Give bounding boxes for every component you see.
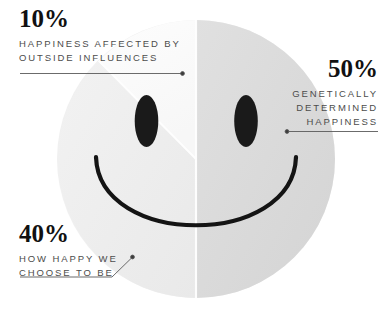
annotation-genetic-happiness: 50% GENETICALLY DETERMINED HAPPINESS <box>292 56 378 129</box>
label-choice-line2: CHOOSE TO BE <box>19 266 118 280</box>
label-genetic-line2: DETERMINED <box>292 101 378 115</box>
right-eye <box>234 95 258 147</box>
percent-outside: 10% <box>19 6 181 32</box>
label-outside-line1: HAPPINESS AFFECTED BY <box>19 37 181 51</box>
annotation-choose-to-be: 40% HOW HAPPY WE CHOOSE TO BE <box>19 221 118 280</box>
annotation-outside-influences: 10% HAPPINESS AFFECTED BY OUTSIDE INFLUE… <box>19 6 181 65</box>
label-genetic-line3: HAPPINESS <box>292 115 378 129</box>
label-genetic-line1: GENETICALLY <box>292 87 378 101</box>
label-choice-line1: HOW HAPPY WE <box>19 252 118 266</box>
left-eye <box>135 95 159 147</box>
percent-genetic: 50% <box>292 56 378 82</box>
label-outside-line2: OUTSIDE INFLUENCES <box>19 51 181 65</box>
percent-choice: 40% <box>19 221 118 247</box>
infographic-canvas: 10% HAPPINESS AFFECTED BY OUTSIDE INFLUE… <box>0 0 392 318</box>
